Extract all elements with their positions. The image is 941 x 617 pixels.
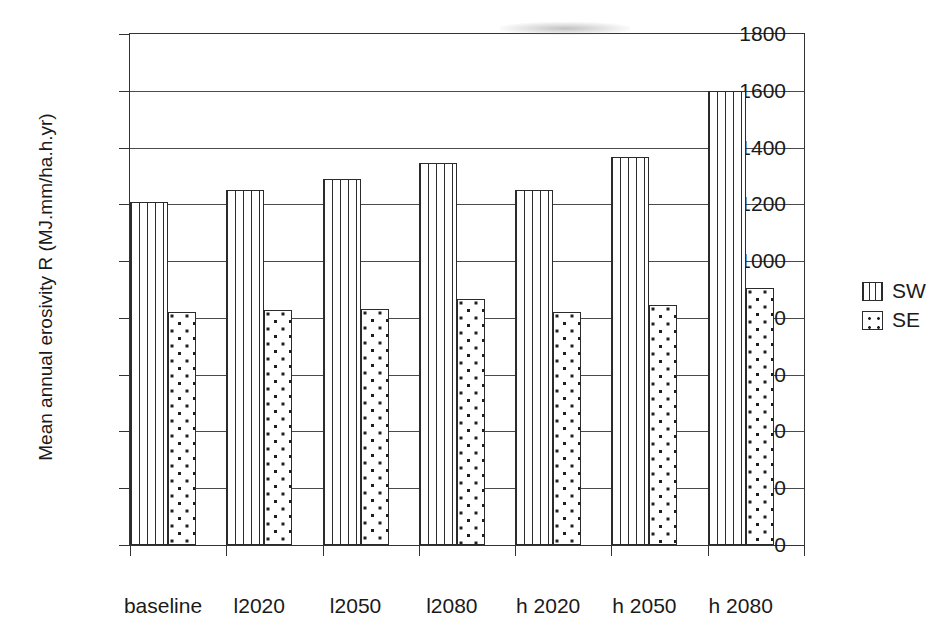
bar-sw bbox=[515, 190, 553, 545]
y-axis-tick bbox=[119, 91, 130, 92]
y-axis-tick bbox=[119, 545, 130, 546]
x-axis-tick bbox=[804, 545, 805, 556]
legend-label-sw: SW bbox=[892, 279, 926, 303]
x-axis-tick bbox=[708, 545, 709, 556]
gridline bbox=[130, 91, 804, 92]
legend-swatch-sw-icon bbox=[862, 282, 883, 301]
y-axis-tick-label: 1800 bbox=[739, 23, 786, 44]
y-axis-tick bbox=[119, 204, 130, 205]
y-axis-tick bbox=[119, 148, 130, 149]
x-axis-tick bbox=[611, 545, 612, 556]
bar-se bbox=[264, 310, 292, 545]
y-axis-tick-label: 1600 bbox=[739, 80, 786, 101]
y-axis-tick-label: 1400 bbox=[739, 137, 786, 158]
legend-item-se: SE bbox=[862, 307, 926, 333]
plot-area: 020040060080010001200140016001800baselin… bbox=[129, 33, 805, 546]
bar-se bbox=[649, 305, 677, 545]
gridline bbox=[130, 148, 804, 149]
y-axis-tick-label: 0 bbox=[774, 534, 786, 555]
legend-swatch-se-icon bbox=[862, 311, 883, 330]
y-axis-tick bbox=[119, 431, 130, 432]
legend-label-se: SE bbox=[892, 308, 920, 332]
bar-sw bbox=[130, 202, 168, 546]
bar-se bbox=[361, 309, 389, 545]
y-axis-tick bbox=[119, 34, 130, 35]
y-axis-tick bbox=[119, 488, 130, 489]
bar-sw bbox=[323, 179, 361, 545]
y-axis-tick bbox=[119, 261, 130, 262]
x-axis-tick bbox=[226, 545, 227, 556]
bar-sw bbox=[419, 163, 457, 545]
x-axis-tick bbox=[323, 545, 324, 556]
bar-sw bbox=[611, 157, 649, 545]
chart-legend: SW SE bbox=[862, 278, 926, 336]
legend-item-sw: SW bbox=[862, 278, 926, 304]
bar-se bbox=[746, 288, 774, 545]
bar-sw bbox=[708, 91, 746, 545]
x-axis-tick bbox=[130, 545, 131, 556]
bar-sw bbox=[226, 190, 264, 545]
y-axis-tick-label: 1200 bbox=[739, 193, 786, 214]
bar-se bbox=[457, 299, 485, 545]
bar-se bbox=[168, 312, 196, 545]
x-axis-tick-label: h 2080 bbox=[671, 594, 811, 617]
y-axis-tick bbox=[119, 318, 130, 319]
x-axis-tick bbox=[419, 545, 420, 556]
x-axis-tick bbox=[515, 545, 516, 556]
y-axis-tick bbox=[119, 375, 130, 376]
bar-se bbox=[553, 312, 581, 545]
y-axis-tick-label: 1000 bbox=[739, 250, 786, 271]
y-axis-title: Mean annual erosivity R (MJ.mm/ha.h.yr) bbox=[35, 27, 57, 547]
